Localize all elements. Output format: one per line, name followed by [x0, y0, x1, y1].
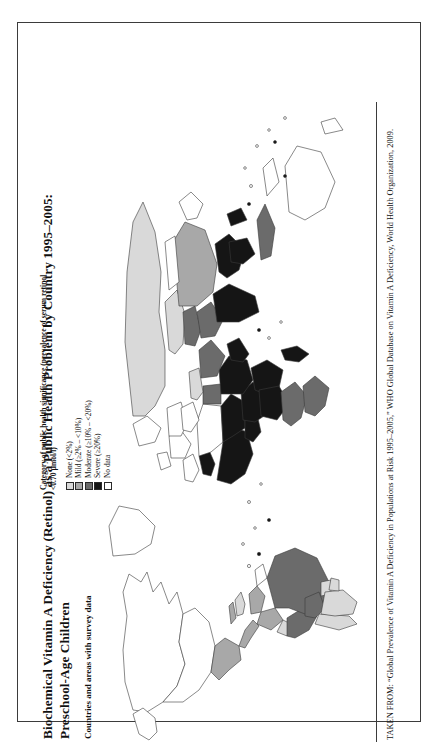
region-caribbean — [235, 592, 245, 616]
region-uruguay — [329, 578, 339, 591]
citation-block: TAKEN FROM: “Global Prevalence of Vitami… — [376, 102, 436, 742]
legend-swatch-mild — [75, 482, 83, 490]
region-alaska — [133, 708, 157, 740]
legend-label-mild: Mild (≥2% – <10%) — [75, 418, 83, 478]
legend-swatch-moderate — [85, 482, 93, 490]
region-mexico — [211, 638, 241, 680]
region-greenland — [109, 506, 155, 556]
legend-swatch-none — [66, 482, 74, 490]
region-indonesia — [257, 204, 275, 260]
region-argentina — [321, 590, 357, 616]
citation-divider — [376, 102, 377, 742]
legend-item-moderate: Moderate (≥10% – <20%) — [85, 260, 93, 490]
region-madagascar — [281, 346, 309, 362]
region-chile — [315, 614, 357, 630]
island-markers-dark — [247, 141, 286, 556]
region-australia — [285, 146, 335, 220]
figure-body: Biochemical Vitamin A Deficiency (Retino… — [37, 102, 367, 742]
figure-frame: Biochemical Vitamin A Deficiency (Retino… — [17, 22, 421, 722]
region-iberia — [183, 454, 199, 482]
region-china — [173, 222, 217, 306]
region-new-guinea — [263, 158, 279, 196]
region-horn-of-africa — [227, 338, 249, 362]
world-map — [99, 102, 365, 742]
region-egypt — [203, 384, 221, 404]
region-venezuela — [249, 586, 265, 614]
page-canvas: Biochemical Vitamin A Deficiency (Retino… — [0, 0, 438, 742]
region-india — [213, 284, 259, 322]
legend-item-none: None (<2%) — [66, 260, 74, 490]
legend-title: Category of public health significance (… — [39, 260, 60, 490]
region-italy-balkans — [181, 402, 199, 432]
legend-label-moderate: Moderate (≥10% – <20%) — [85, 400, 93, 478]
island-markers — [242, 117, 287, 568]
region-russian-federation — [125, 202, 165, 416]
region-scandinavia — [133, 416, 161, 446]
region-new-zealand — [321, 118, 343, 134]
legend-item-mild: Mild (≥2% – <10%) — [75, 260, 83, 490]
region-guianas — [255, 564, 267, 586]
region-central-america — [239, 620, 259, 648]
region-southern-africa — [303, 376, 329, 416]
region-cuba — [229, 602, 236, 624]
region-british-isles — [157, 452, 171, 470]
region-algeria-libya — [197, 404, 223, 456]
legend-label-none: None (<2%) — [66, 441, 74, 478]
region-indochina — [229, 238, 255, 264]
region-philippines — [227, 208, 247, 226]
citation-text: TAKEN FROM: “Global Prevalence of Vitami… — [385, 106, 398, 740]
region-korea-japan — [179, 192, 203, 220]
